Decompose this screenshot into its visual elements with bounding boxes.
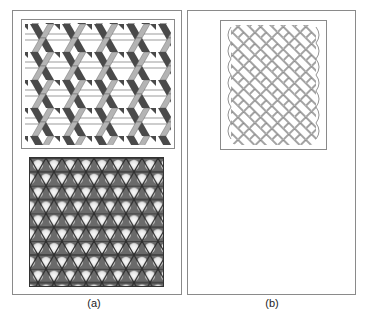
basket-weave-graphic bbox=[221, 21, 326, 149]
kagome-lattice-figure bbox=[29, 157, 164, 287]
ribbon-weave-graphic bbox=[22, 20, 174, 148]
basket-weave-figure bbox=[220, 20, 327, 150]
ribbon-weave-figure bbox=[21, 19, 175, 149]
kagome-lattice-graphic bbox=[30, 158, 163, 286]
panel-a bbox=[12, 10, 182, 295]
caption-a: (a) bbox=[74, 297, 114, 309]
panel-b bbox=[187, 10, 356, 295]
caption-b: (b) bbox=[252, 297, 292, 309]
